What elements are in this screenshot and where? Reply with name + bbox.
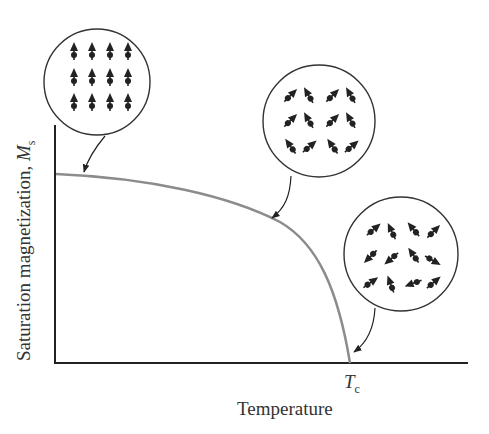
diagram-canvas: Saturation magnetization, Ms Tc Temperat… <box>0 0 489 434</box>
y-axis-label: Saturation magnetization, Ms <box>13 140 38 361</box>
inset-partially-aligned <box>263 65 375 218</box>
pointer-arrow <box>84 136 105 172</box>
magnetization-curve <box>56 174 350 363</box>
curie-temperature-label: Tc <box>344 371 360 396</box>
pointer-arrow <box>272 176 291 218</box>
x-axis-label: Temperature <box>237 398 333 419</box>
pointer-arrow <box>354 308 375 352</box>
inset-aligned-moments <box>44 29 150 172</box>
inset-random-moments <box>344 197 458 352</box>
